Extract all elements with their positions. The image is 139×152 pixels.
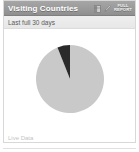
pie-chart xyxy=(4,29,135,143)
widget-title: Visiting Countries xyxy=(8,4,78,13)
full-report-line-2: REPORT xyxy=(114,7,132,12)
pie-slices xyxy=(35,45,103,113)
visiting-countries-widget: Visiting Countries FULL REPORT xyxy=(3,0,136,143)
bottom-divider xyxy=(3,148,136,149)
pie-chart-svg xyxy=(35,44,105,114)
date-range-label: Last full 30 days xyxy=(8,19,55,26)
titlebar-actions: FULL REPORT xyxy=(94,1,135,16)
chart-area: Live Data xyxy=(4,29,135,143)
full-report-button[interactable]: FULL REPORT xyxy=(114,4,132,13)
date-range-bar: Last full 30 days xyxy=(4,16,135,29)
pencil-icon[interactable] xyxy=(104,1,111,16)
live-data-label: Live Data xyxy=(8,135,33,141)
grid-icon[interactable] xyxy=(94,1,101,16)
widget-titlebar: Visiting Countries FULL REPORT xyxy=(4,1,135,16)
